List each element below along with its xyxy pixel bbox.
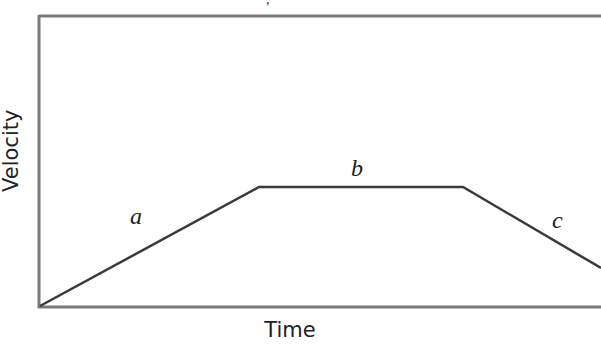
plot-frame [38, 15, 601, 308]
segment-b-label: b [351, 155, 363, 182]
segment-a-label: a [130, 203, 142, 230]
velocity-line [40, 187, 601, 306]
title-fragment: , [266, 0, 270, 8]
velocity-time-chart [0, 0, 601, 345]
x-axis-label: Time [255, 318, 325, 342]
segment-c-label: c [552, 207, 563, 234]
y-axis-label: Velocity [0, 122, 23, 192]
